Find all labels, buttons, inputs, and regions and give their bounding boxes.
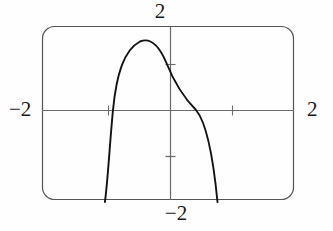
y-axis-min-label: −2 [165, 203, 187, 224]
graph-screenshot: 2 −2 −2 2 [0, 0, 333, 231]
viewport-frame [43, 27, 294, 200]
plot-canvas [0, 0, 333, 231]
y-axis-max-label: 2 [155, 1, 166, 22]
x-axis-min-label: −2 [9, 99, 31, 120]
x-axis-max-label: 2 [307, 99, 318, 120]
